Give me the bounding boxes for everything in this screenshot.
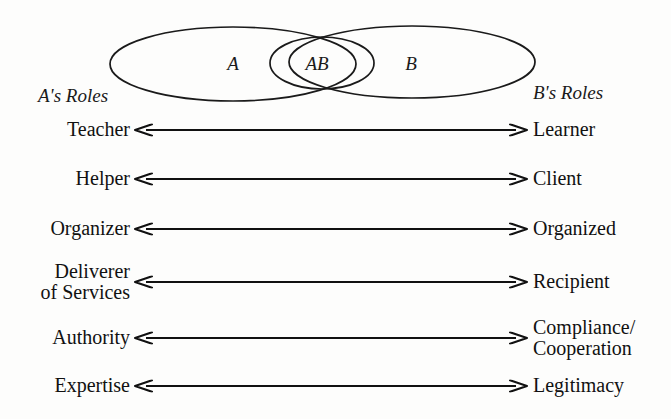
column-header-a-roles: A's Roles <box>38 86 108 105</box>
role-right-label: Recipient <box>533 271 610 292</box>
double-headed-arrow-icon <box>134 124 528 137</box>
double-headed-arrow-icon <box>134 332 528 345</box>
venn-region-label-a: A <box>227 54 239 73</box>
venn-region-label-b: B <box>405 54 417 73</box>
role-right-label: Organized <box>533 218 616 239</box>
role-left-label: Delivererof Services <box>41 261 130 303</box>
role-left-label: Teacher <box>67 119 130 140</box>
role-right-label: Learner <box>533 119 595 140</box>
venn-region-label-ab: AB <box>305 54 328 73</box>
column-header-b-roles: B's Roles <box>533 83 603 102</box>
role-left-label: Helper <box>76 168 130 189</box>
double-headed-arrow-icon <box>134 223 528 236</box>
double-headed-arrow-icon <box>134 380 528 393</box>
role-left-label: Organizer <box>50 218 130 239</box>
double-headed-arrow-icon <box>134 276 528 289</box>
diagram-page: A AB B A's Roles B's Roles TeacherLearne… <box>0 0 671 419</box>
role-right-label: Legitimacy <box>533 375 624 396</box>
double-headed-arrow-icon <box>134 173 528 186</box>
role-left-label: Expertise <box>54 375 130 396</box>
role-left-label: Authority <box>52 327 130 348</box>
role-right-label: Compliance/Cooperation <box>533 317 635 359</box>
role-right-label: Client <box>533 168 582 189</box>
